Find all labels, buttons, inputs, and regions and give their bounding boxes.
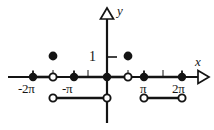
point-filled-2pi <box>178 73 186 81</box>
x-axis-label: x <box>195 55 201 68</box>
x-axis-arrow-icon <box>198 71 209 84</box>
point-filled-halfpi-at-one <box>124 52 133 61</box>
y-tick-label-one: 1 <box>89 50 96 64</box>
graph-figure: y x 1 -2π -π π 2π <box>0 0 214 130</box>
point-open-neg3pi2-axis <box>49 73 56 80</box>
point-filled-origin <box>103 73 111 81</box>
x-tick-label-2pi: 2π <box>172 82 184 95</box>
point-open-halfpi-axis <box>124 73 131 80</box>
y-axis-label: y <box>117 4 123 17</box>
point-filled-neg3pi2-at-one <box>49 52 58 61</box>
point-filled-negpi <box>70 73 78 81</box>
point-open-neg3pi2-at-minus-one <box>49 94 56 101</box>
plot-canvas <box>0 0 214 130</box>
y-axis-arrow-icon <box>101 8 114 19</box>
x-tick-label-neg2pi: -2π <box>18 82 35 95</box>
point-open-zero-at-minus-one <box>103 94 110 101</box>
point-filled-neg2pi <box>29 73 37 81</box>
x-tick-label-pi: π <box>140 82 146 95</box>
point-filled-pi <box>140 73 148 81</box>
x-tick-label-negpi: -π <box>62 82 72 95</box>
